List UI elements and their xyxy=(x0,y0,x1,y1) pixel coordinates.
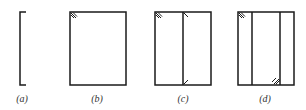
panel-a-label: (a) xyxy=(16,93,28,104)
hatch-mark-icon xyxy=(239,13,245,19)
arrow-tick-icon xyxy=(184,13,188,17)
panel-b-label: (b) xyxy=(91,93,103,104)
hatch-mark-icon xyxy=(156,13,162,19)
hatch-mark-icon xyxy=(272,78,280,84)
panel-b-rectangle xyxy=(70,12,126,85)
arrow-tick-icon xyxy=(184,80,188,84)
hatch-mark-icon xyxy=(71,13,77,19)
panel-c-label: (c) xyxy=(177,93,188,104)
panel-c-rectangle xyxy=(155,12,211,85)
panel-d-rectangle xyxy=(238,12,294,85)
panel-a-bracket xyxy=(20,12,26,85)
panel-d-label: (d) xyxy=(259,93,271,104)
